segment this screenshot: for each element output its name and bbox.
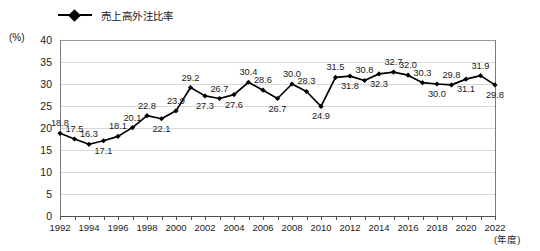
x-axis-tick: [336, 216, 337, 220]
y-axis-tick-label: 25: [8, 100, 52, 112]
y-axis-tick-label: 15: [8, 144, 52, 156]
x-axis-tick: [89, 216, 90, 220]
y-axis-tick-label: 35: [8, 56, 52, 68]
x-axis-tick: [292, 216, 293, 220]
data-point-label: 29.8: [432, 70, 472, 80]
data-point-label: 28.3: [287, 76, 327, 86]
y-axis-tick-label: 0: [8, 210, 52, 222]
x-axis-tick: [379, 216, 380, 220]
x-axis-tick-label: 2022: [475, 222, 515, 233]
x-axis-tick: [307, 216, 308, 220]
x-axis-tick: [481, 216, 482, 220]
data-point-marker: [434, 81, 439, 86]
data-point-label: 22.1: [142, 124, 182, 134]
x-axis-tick: [205, 216, 206, 220]
x-axis-tick: [234, 216, 235, 220]
data-point-label: 29.2: [171, 73, 211, 83]
chart-container: 売上高外注比率 (%) (年度) 40353025201510501992199…: [0, 0, 540, 251]
y-axis-tick-label: 5: [8, 188, 52, 200]
data-point-label: 20.1: [113, 113, 153, 123]
x-axis-tick: [263, 216, 264, 220]
x-axis-tick: [147, 216, 148, 220]
data-point-marker: [391, 70, 396, 75]
y-axis-tick-label: 30: [8, 78, 52, 90]
x-axis-tick: [495, 216, 496, 220]
data-point-label: 17.1: [84, 146, 124, 156]
data-point-label: 24.9: [301, 111, 341, 121]
x-axis-tick: [75, 216, 76, 220]
x-axis-tick: [191, 216, 192, 220]
x-axis-tick: [104, 216, 105, 220]
data-point-label: 27.6: [214, 100, 254, 110]
x-axis-tick: [408, 216, 409, 220]
x-axis-tick: [452, 216, 453, 220]
x-axis-tick: [350, 216, 351, 220]
data-point-label: 29.8: [475, 90, 515, 100]
x-axis-tick: [162, 216, 163, 220]
x-axis-tick: [423, 216, 424, 220]
x-axis-tick: [278, 216, 279, 220]
x-axis-tick: [60, 216, 61, 220]
y-axis-tick-label: 10: [8, 166, 52, 178]
data-point-label: 26.7: [258, 104, 298, 114]
x-axis-tick: [437, 216, 438, 220]
x-axis-tick: [365, 216, 366, 220]
x-axis-tick: [133, 216, 134, 220]
y-axis-tick-label: 40: [8, 34, 52, 46]
x-axis-tick: [176, 216, 177, 220]
x-axis-tick: [118, 216, 119, 220]
data-point-label: 26.7: [200, 84, 240, 94]
data-point-label: 32.3: [359, 79, 399, 89]
data-point-label: 31.9: [461, 61, 501, 71]
x-axis-tick: [466, 216, 467, 220]
data-point-label: 18.1: [98, 121, 138, 131]
x-axis-tick: [394, 216, 395, 220]
x-axis-tick: [220, 216, 221, 220]
x-axis-tick: [249, 216, 250, 220]
x-axis-tick: [321, 216, 322, 220]
